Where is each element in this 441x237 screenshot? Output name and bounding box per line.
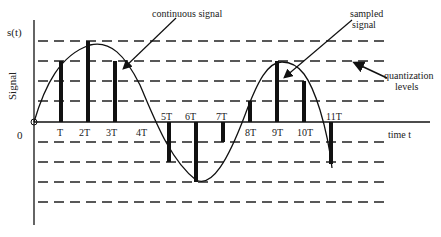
sampled-signal-label-1: sampled: [350, 8, 383, 19]
quantization-arrow: [355, 63, 387, 78]
origin-label: 0: [17, 129, 23, 141]
tick-11T: 11T: [326, 111, 342, 122]
tick-4T: 4T: [136, 127, 147, 138]
x-axis-title: time t: [388, 129, 411, 140]
quantization-label-2: levels: [395, 81, 418, 92]
tick-8T: 8T: [245, 127, 256, 138]
y-axis-label: s(t): [7, 26, 22, 39]
tick-labels: T 2T 3T 4T 5T 6T 7T 8T 9T 10T 11T: [57, 111, 342, 138]
tick-3T: 3T: [106, 127, 117, 138]
sampling-quantization-diagram: s(t) Signal 0 time t continuous signal s…: [0, 0, 441, 237]
tick-7T: 7T: [216, 111, 227, 122]
sampled-signal-arrow: [285, 20, 352, 77]
tick-T: T: [57, 127, 63, 138]
tick-2T: 2T: [79, 127, 90, 138]
tick-6T: 6T: [185, 111, 196, 122]
tick-10T: 10T: [297, 127, 313, 138]
tick-5T: 5T: [161, 111, 172, 122]
quantization-label-1: quantization: [384, 70, 433, 81]
y-axis-title: Signal: [6, 72, 18, 100]
continuous-signal-curve: [34, 44, 332, 181]
sampled-signal-label-2: signal: [352, 19, 376, 30]
tick-9T: 9T: [272, 127, 283, 138]
continuous-signal-label: continuous signal: [152, 8, 222, 19]
